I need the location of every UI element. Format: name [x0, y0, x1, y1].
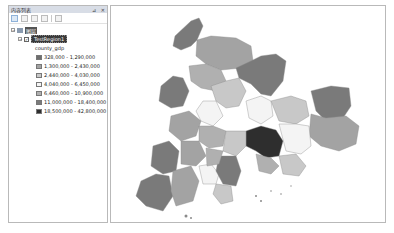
- choropleth-map: [111, 6, 387, 224]
- legend-item: 18,500,000 - 42,800,000: [36, 107, 106, 115]
- legend-label: 6,460,000 - 10,900,000: [44, 90, 103, 96]
- toc-title: 内容列表: [11, 6, 31, 13]
- layers-icon: [17, 28, 23, 33]
- field-name: county_gdp: [35, 45, 64, 51]
- legend-swatch: [36, 91, 42, 96]
- legend-label: 18,500,000 - 42,800,000: [44, 108, 106, 114]
- legend-label: 2,440,000 - 4,030,000: [44, 72, 100, 78]
- toc-toolbar: [9, 13, 107, 24]
- legend-item: 6,460,000 - 10,900,000: [36, 89, 103, 97]
- collapse-icon[interactable]: −: [18, 37, 22, 41]
- table-of-contents-panel: 内容列表 ⊿ ✕ − 图层 − ✓ TestRegion1 county_gdp…: [8, 5, 108, 223]
- list-by-visibility-button[interactable]: [31, 15, 38, 22]
- legend-swatch: [36, 55, 42, 60]
- list-by-selection-button[interactable]: [41, 15, 48, 22]
- legend-swatch: [36, 82, 42, 87]
- list-by-source-button[interactable]: [21, 15, 28, 22]
- map-view[interactable]: [110, 5, 386, 223]
- legend-swatch: [36, 100, 42, 105]
- legend-label: 328,000 - 1,290,000: [44, 54, 95, 60]
- legend-label: 1,300,000 - 2,430,000: [44, 63, 100, 69]
- legend-swatch: [36, 64, 42, 69]
- legend-swatch: [36, 109, 42, 114]
- field-name-row: county_gdp: [35, 44, 64, 52]
- data-frame-row[interactable]: − 图层: [11, 26, 37, 34]
- legend-item: 1,300,000 - 2,430,000: [36, 62, 100, 70]
- data-frame-label: 图层: [25, 27, 37, 34]
- legend-item: 4,040,000 - 6,450,000: [36, 80, 100, 88]
- pin-icon[interactable]: ⊿: [92, 7, 96, 13]
- legend-swatch: [36, 73, 42, 78]
- legend-item: 328,000 - 1,290,000: [36, 53, 95, 61]
- layer-name[interactable]: TestRegion1: [31, 35, 67, 43]
- legend-item: 11,000,000 - 18,400,000: [36, 98, 106, 106]
- options-button[interactable]: [55, 15, 62, 22]
- legend-label: 11,000,000 - 18,400,000: [44, 99, 106, 105]
- close-icon[interactable]: ✕: [101, 7, 105, 13]
- toolbar-separator: [51, 15, 52, 22]
- layer-row[interactable]: − ✓ TestRegion1: [18, 35, 67, 43]
- legend-item: 2,440,000 - 4,030,000: [36, 71, 100, 79]
- list-by-drawing-order-button[interactable]: [11, 15, 18, 22]
- layer-tree: − 图层 − ✓ TestRegion1 county_gdp 328,000 …: [9, 24, 107, 26]
- layer-visibility-checkbox[interactable]: ✓: [24, 37, 29, 42]
- collapse-icon[interactable]: −: [11, 28, 15, 32]
- legend-label: 4,040,000 - 6,450,000: [44, 81, 100, 87]
- toc-title-bar: 内容列表 ⊿ ✕: [9, 6, 107, 13]
